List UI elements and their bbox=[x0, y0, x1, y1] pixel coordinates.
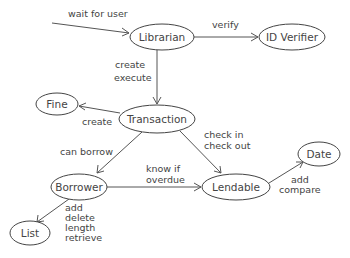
edge-verify bbox=[194, 33, 258, 41]
node-label-id-verifier: ID Verifier bbox=[266, 31, 319, 43]
label-know-if: know if bbox=[146, 163, 181, 174]
label-can-borrow: can borrow bbox=[60, 146, 113, 157]
node-list: List bbox=[10, 221, 50, 245]
node-id-verifier: ID Verifier bbox=[259, 24, 325, 50]
node-label-fine: Fine bbox=[46, 98, 67, 110]
label-fine-create: create bbox=[82, 116, 112, 127]
diagram-canvas: wait for user verify create execute crea… bbox=[0, 0, 350, 258]
label-wait-for-user: wait for user bbox=[68, 8, 128, 19]
node-borrower: Borrower bbox=[51, 174, 107, 200]
label-list-retrieve: retrieve bbox=[65, 232, 102, 243]
label-date-compare: compare bbox=[279, 184, 321, 195]
label-check-out: check out bbox=[204, 140, 251, 151]
label-create: create bbox=[115, 59, 145, 70]
label-check-in: check in bbox=[204, 129, 244, 140]
node-label-list: List bbox=[21, 227, 39, 239]
label-execute: execute bbox=[114, 72, 152, 83]
edge-wait-for-user bbox=[52, 23, 129, 36]
node-label-lendable: Lendable bbox=[212, 181, 260, 193]
node-date: Date bbox=[298, 142, 340, 166]
label-verify: verify bbox=[212, 19, 239, 30]
node-librarian: Librarian bbox=[130, 24, 194, 50]
node-lendable: Lendable bbox=[202, 174, 270, 200]
node-label-borrower: Borrower bbox=[55, 181, 103, 193]
node-transaction: Transaction bbox=[119, 105, 195, 133]
node-label-date: Date bbox=[306, 148, 331, 160]
node-label-transaction: Transaction bbox=[126, 113, 187, 125]
node-label-librarian: Librarian bbox=[139, 31, 186, 43]
edge-create-execute bbox=[153, 50, 161, 104]
node-fine: Fine bbox=[36, 93, 78, 115]
label-overdue: overdue bbox=[146, 174, 185, 185]
edge-create-fine bbox=[79, 103, 120, 113]
